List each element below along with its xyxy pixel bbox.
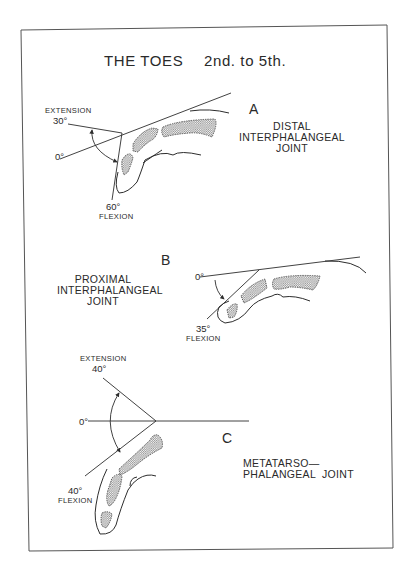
panel-c-arc-arrow — [110, 393, 120, 452]
panel-c-flexion-degrees: 40° — [68, 485, 83, 496]
panel-b-letter: B — [161, 252, 170, 268]
panel-c-extension-degrees: 40° — [92, 363, 107, 374]
toes-range-of-motion-diagram: THE TOES 2nd. to 5th. EXTENSION 30° 0° 6… — [0, 0, 409, 572]
panel-b-flexion-label: FLEXION — [186, 334, 221, 343]
panel-a-flexion-label: FLEXION — [99, 212, 134, 221]
panel-a-proximal-phalanx — [122, 154, 133, 175]
panel-a-arc-arrow — [92, 130, 117, 162]
panel-c-toe-crease — [130, 477, 137, 486]
panel-b-zero-label: 0° — [195, 271, 204, 282]
panel-b-joint-line-3: JOINT — [87, 295, 119, 307]
panel-b-proximal-phalanx — [227, 304, 237, 318]
panel-c-extension-label: EXTENSION — [80, 354, 127, 363]
panel-c-joint-line-2: PHALANGEAL JOINT — [243, 468, 354, 480]
panel-c-flexion-label: FLEXION — [58, 496, 93, 505]
title-main: THE TOES — [104, 52, 183, 69]
panel-a-distal-phalanx — [162, 119, 216, 137]
panel-b-distal-phalanx — [273, 275, 321, 290]
panel-a-extension-line — [68, 124, 122, 133]
panel-a-toe-crease — [143, 150, 162, 163]
title-sub: 2nd. to 5th. — [204, 52, 286, 69]
panel-a-extension-label: EXTENSION — [45, 106, 92, 115]
panel-c-letter: C — [222, 430, 232, 446]
panel-b-flexion-degrees: 35° — [196, 323, 211, 334]
panel-c-metatarsophalangeal: EXTENSION 40° 0° 40° FLEXION C METATARSO… — [58, 354, 354, 534]
panel-c-distal-phalanx — [101, 512, 112, 528]
panel-a-extension-degrees: 30° — [53, 115, 68, 126]
panel-a-distal-interphalangeal: EXTENSION 30° 0° 60° FLEXION A DISTAL IN… — [45, 93, 345, 221]
panel-c-zero-label: 0° — [79, 416, 88, 427]
panel-c-proximal-phalanx — [119, 435, 163, 475]
panel-a-joint-line-3: JOINT — [276, 142, 308, 154]
panel-a-zero-label: 0° — [55, 151, 64, 162]
panel-c-middle-phalanx — [107, 474, 122, 506]
panel-b-toe-dorsal — [325, 261, 366, 273]
panel-a-flexion-degrees: 60° — [106, 201, 121, 212]
panel-b-proximal-interphalangeal: 0° 35° FLEXION B PROXIMAL INTERPHALANGEA… — [57, 252, 366, 343]
panel-b-zero-axis — [200, 257, 360, 277]
panel-a-middle-phalanx — [133, 128, 158, 152]
panel-a-toe-dorsal — [190, 110, 229, 113]
panel-a-letter: A — [249, 101, 259, 117]
panel-b-arc-arrow — [215, 280, 224, 299]
panel-b-middle-phalanx — [241, 279, 267, 303]
